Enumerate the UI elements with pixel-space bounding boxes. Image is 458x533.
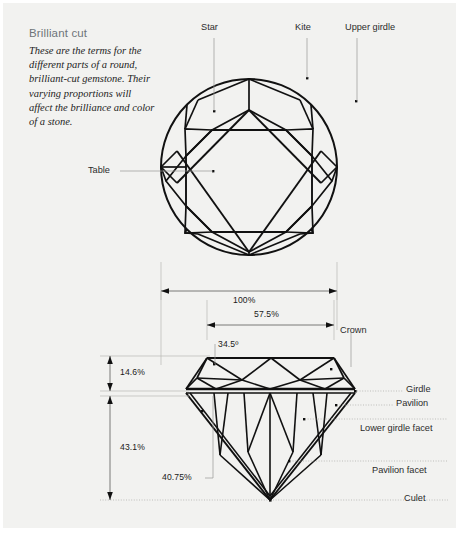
crown-facets-side xyxy=(186,358,355,389)
label-culet: Culet xyxy=(404,494,425,503)
label-upper-girdle: Upper girdle xyxy=(345,23,395,32)
side-view-group xyxy=(186,358,357,502)
dim-crown-height xyxy=(100,356,210,391)
dim-label-table-width: 57.5% xyxy=(254,310,279,319)
label-lower-girdle-facet: Lower girdle facet xyxy=(360,424,433,433)
label-kite: Kite xyxy=(295,23,311,32)
diamond-diagram-artwork xyxy=(0,0,458,533)
label-star: Star xyxy=(201,23,218,32)
crown-dot-2 xyxy=(330,368,332,370)
label-table: Table xyxy=(88,166,110,175)
label-girdle: Girdle xyxy=(406,385,431,394)
crown-main-facets xyxy=(177,110,321,252)
crown-star-facets-side xyxy=(197,358,344,389)
table-octagon xyxy=(186,130,312,232)
dim-lower-girdle xyxy=(205,396,213,478)
brilliant-cut-figure: Brilliant cut These are the terms for th… xyxy=(0,0,458,533)
culet-point xyxy=(269,499,272,502)
label-pavilion: Pavilion xyxy=(396,399,428,408)
girdle-dot xyxy=(354,390,357,393)
pavilion-left-dot xyxy=(201,410,203,412)
dim-label-crown-angle: 34.5º xyxy=(218,340,238,349)
pavilion-facets xyxy=(190,393,351,500)
dim-table-width xyxy=(207,300,334,340)
label-crown: Crown xyxy=(340,326,367,335)
dim-label-crown-height: 14.6% xyxy=(120,368,145,377)
star-facets xyxy=(186,130,312,232)
label-pavilion-facet: Pavilion facet xyxy=(372,466,427,475)
dim-label-lower-girdle: 40.75% xyxy=(162,473,192,482)
top-view-group xyxy=(161,77,357,255)
dim-label-diameter: 100% xyxy=(233,296,255,305)
dim-label-pavilion-depth: 43.1% xyxy=(120,443,145,452)
